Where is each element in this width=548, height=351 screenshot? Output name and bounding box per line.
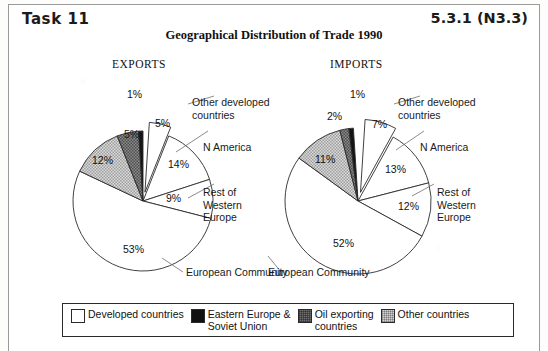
imports-label-n-america: N America bbox=[420, 141, 468, 154]
legend-item-0: Developed countries bbox=[71, 308, 184, 323]
legend-item-2: Oil exporting countries bbox=[298, 308, 374, 332]
imports-pct-1: 1% bbox=[350, 88, 365, 100]
legend-swatch-1 bbox=[191, 309, 205, 323]
legend-item-3: Other countries bbox=[381, 308, 470, 323]
legend-label-3: Other countries bbox=[398, 308, 470, 320]
legend-swatch-0 bbox=[71, 309, 85, 323]
legend-label-1: Eastern Europe & Soviet Union bbox=[208, 308, 291, 332]
legend-swatch-2 bbox=[298, 309, 312, 323]
imports-pct-11: 11% bbox=[315, 153, 335, 165]
imports-pie-chart bbox=[0, 0, 548, 351]
imports-pct-12: 12% bbox=[398, 200, 419, 212]
imports-pct-52: 52% bbox=[333, 237, 354, 249]
imports-label-european-community: European Community bbox=[268, 266, 370, 279]
legend-label-2: Oil exporting countries bbox=[315, 308, 374, 332]
imports-pct-7: 7% bbox=[372, 118, 387, 130]
imports-pct-2: 2% bbox=[327, 110, 342, 122]
imports-pct-13: 13% bbox=[385, 163, 406, 175]
legend: Developed countriesEastern Europe & Sovi… bbox=[62, 303, 514, 337]
imports-label-rest-west-europe: Rest of Western Europe bbox=[437, 186, 476, 224]
imports-label-other-developed: Other developed countries bbox=[398, 96, 476, 121]
legend-item-1: Eastern Europe & Soviet Union bbox=[191, 308, 291, 332]
legend-swatch-3 bbox=[381, 309, 395, 323]
legend-label-0: Developed countries bbox=[88, 308, 184, 320]
